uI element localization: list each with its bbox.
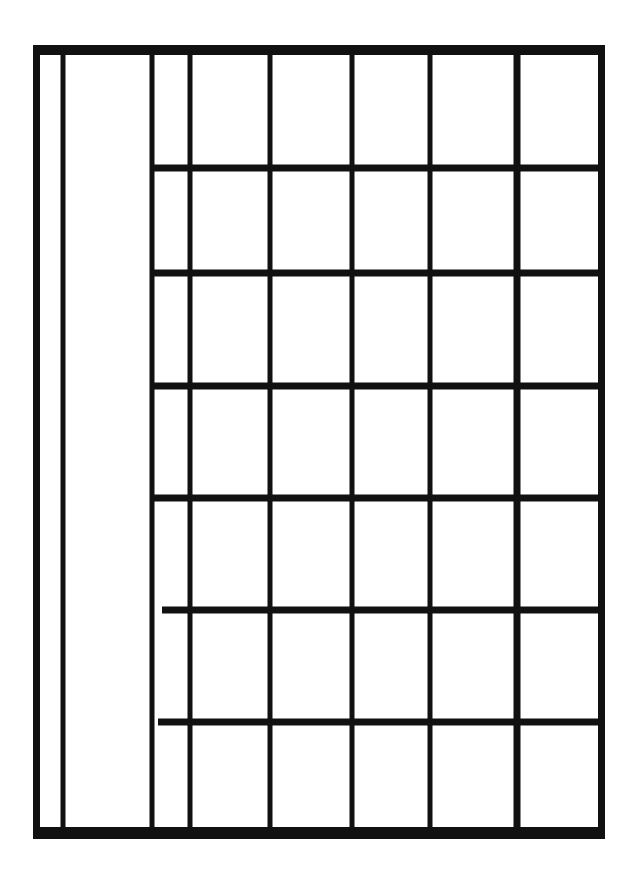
grid-diagram bbox=[0, 0, 632, 877]
horizontal-line-4 bbox=[152, 495, 598, 502]
frame-right-line bbox=[598, 45, 605, 833]
frame-left-line bbox=[33, 45, 40, 833]
horizontal-line-1 bbox=[152, 165, 598, 172]
vertical-line-1 bbox=[61, 50, 66, 830]
horizontal-line-2 bbox=[152, 270, 598, 277]
horizontal-grid-lines bbox=[152, 165, 598, 726]
horizontal-line-5 bbox=[162, 607, 598, 614]
horizontal-line-6 bbox=[158, 719, 598, 726]
horizontal-line-3 bbox=[152, 383, 598, 390]
